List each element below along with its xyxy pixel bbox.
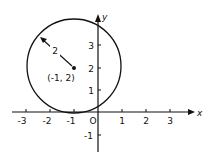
y-tick-label: 3 [88,41,94,51]
x-tick-label: 3 [167,116,173,126]
y-tick-label: 1 [88,86,94,96]
x-tick-label: -1 [67,116,76,126]
center-point [72,66,76,70]
y-axis: y -1 1 2 3 [84,12,108,152]
y-tick-label: 2 [88,64,94,74]
x-axis-arrow-icon [188,109,195,115]
center-label: (-1, 2) [47,73,74,83]
origin-label: O [89,116,96,126]
radius-label: 2 [52,46,58,56]
y-axis-arrow-icon [95,14,101,22]
x-axis: x -3 -2 -1 O 1 2 3 [12,108,203,126]
x-tick-label: 1 [119,116,125,126]
x-tick-label: -2 [43,116,52,126]
circle-diagram: x -3 -2 -1 O 1 2 3 y -1 1 2 3 [0,0,208,158]
x-tick-label: 2 [143,116,149,126]
x-tick-label: -3 [18,116,27,126]
x-axis-label: x [196,108,203,118]
y-tick-label: -1 [84,131,93,141]
y-axis-label: y [101,12,108,22]
